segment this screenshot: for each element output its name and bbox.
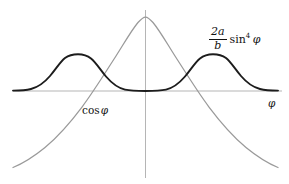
fraction-numerator: 2a [209, 26, 227, 38]
figure-root: cos φ φ 2absin4φ [0, 0, 289, 184]
sin-exponent: 4 [246, 33, 250, 41]
sin-argument: φ [253, 34, 261, 45]
label-sin4-formula: 2absin4φ [209, 27, 260, 53]
cos-function-name: cos [82, 104, 100, 116]
label-phi-axis: φ [268, 98, 275, 109]
fraction-denominator: b [209, 40, 227, 52]
cos-argument: φ [101, 104, 108, 116]
fraction-2a-over-b: 2ab [209, 26, 227, 52]
sin-function: sin4 [230, 34, 251, 45]
sin-function-name: sin [230, 33, 246, 46]
label-cos-phi: cos φ [82, 105, 108, 116]
